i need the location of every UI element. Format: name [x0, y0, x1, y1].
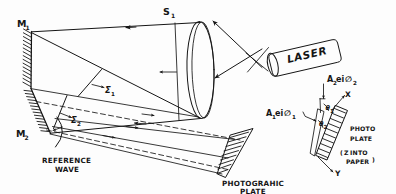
z-into-paper-into: INTO: [350, 149, 368, 156]
photographic-plate-label-line2: PLATE: [240, 187, 266, 194]
mirror-m2-label-sub: 2: [25, 134, 29, 141]
amplitude-1-expression: A 1 e i ∅ 1: [266, 109, 296, 120]
axis-x-label: X: [345, 90, 351, 99]
laser-source: LASER: [265, 40, 341, 78]
wavefront-sigma-2-label-sub: 2: [77, 121, 81, 127]
reference-wave-label-line1: REFERENCE: [42, 156, 91, 165]
wavefront-sigma-2: Σ 2: [54, 96, 82, 129]
amplitude-1-phi-sub: 1: [292, 114, 296, 120]
wavefront-sigma-1: Σ 1: [78, 70, 115, 98]
theta-2-label-sub: 2: [324, 124, 328, 130]
photo-plate-label-line2: PLATE: [350, 135, 372, 142]
axis-x: X: [332, 90, 351, 110]
mirror-m2: M 2: [16, 89, 51, 142]
lens-s1-label-sub: 1: [171, 12, 175, 19]
z-into-paper-close-paren: ): [372, 156, 375, 163]
z-into-paper-z: Z: [344, 149, 349, 156]
amplitude-2-expression: A 2 e i ∅ 2: [327, 75, 357, 86]
wavefront-sigma-1-label-sub: 1: [111, 91, 115, 97]
z-into-paper-paper: PAPER: [346, 158, 369, 165]
amplitude-2-phi: ∅: [345, 75, 352, 84]
mirror-m1: M 1: [17, 18, 32, 89]
lens-s1-label: S: [163, 6, 170, 17]
reference-wavefront: REFERENCE WAVE: [42, 117, 91, 174]
z-into-paper-open-paren: (: [340, 149, 343, 156]
amplitude-1-phi: ∅: [284, 109, 291, 118]
beam-laser-to-lens: [213, 21, 269, 78]
amplitude-2-phi-sub: 2: [353, 80, 357, 86]
mirror-m1-label-sub: 1: [26, 24, 30, 31]
reference-wave-label-line2: WAVE: [55, 165, 79, 174]
amplitude-1-arrow: [303, 112, 316, 121]
holography-diagram-figure: M 1 M 2: [0, 0, 396, 194]
laser-label: LASER: [286, 44, 328, 65]
photo-plate-label-line1: PHOTO: [350, 125, 375, 132]
axis-y-label: Y: [334, 169, 341, 178]
photo-plate-inset: X Y θ 1 θ 2 A 2 e i ∅: [266, 75, 375, 178]
diagram-canvas: M 1 M 2: [0, 0, 396, 194]
theta-1-label-sub: 1: [330, 108, 334, 114]
axis-y: Y: [318, 157, 341, 178]
